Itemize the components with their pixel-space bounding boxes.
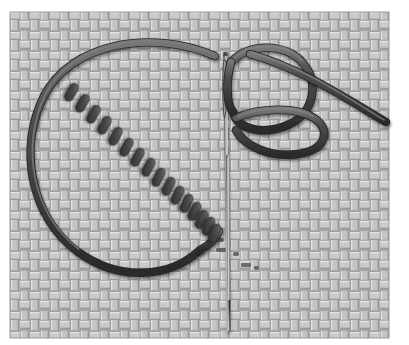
- sewing-stitch-illustration: Blanket stitch worked with needle and th…: [0, 0, 409, 345]
- fabric-ground: [10, 12, 389, 338]
- illustration-figure: Blanket stitch worked with needle and th…: [0, 0, 409, 345]
